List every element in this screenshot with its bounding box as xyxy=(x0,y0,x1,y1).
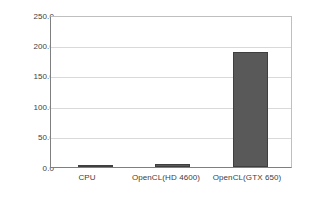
y-tick-label-250: 250.0 xyxy=(0,12,54,21)
x-tick-label-cpu: CPU xyxy=(52,173,122,183)
x-tick-label-opencl-hd4600: OpenCL(HD 4600) xyxy=(126,173,206,183)
y-tick-label-0: 0.0 xyxy=(0,164,54,173)
bar-opencl-hd4600 xyxy=(155,164,190,167)
plot-area xyxy=(50,16,292,168)
y-tick-label-150: 150.0 xyxy=(0,72,54,81)
x-tick-label-opencl-gtx650: OpenCL(GTX 650) xyxy=(207,173,287,183)
bar-opencl-gtx650 xyxy=(233,52,268,167)
bar-chart: 250.0 200.0 150.0 100.0 50.0 0.0 CPU Ope… xyxy=(0,0,309,201)
y-tick-label-50: 50.0 xyxy=(0,133,54,142)
bar-cpu xyxy=(78,165,113,167)
gridline-200 xyxy=(51,47,291,48)
y-tick-label-200: 200.0 xyxy=(0,42,54,51)
y-tick-label-100: 100.0 xyxy=(0,103,54,112)
